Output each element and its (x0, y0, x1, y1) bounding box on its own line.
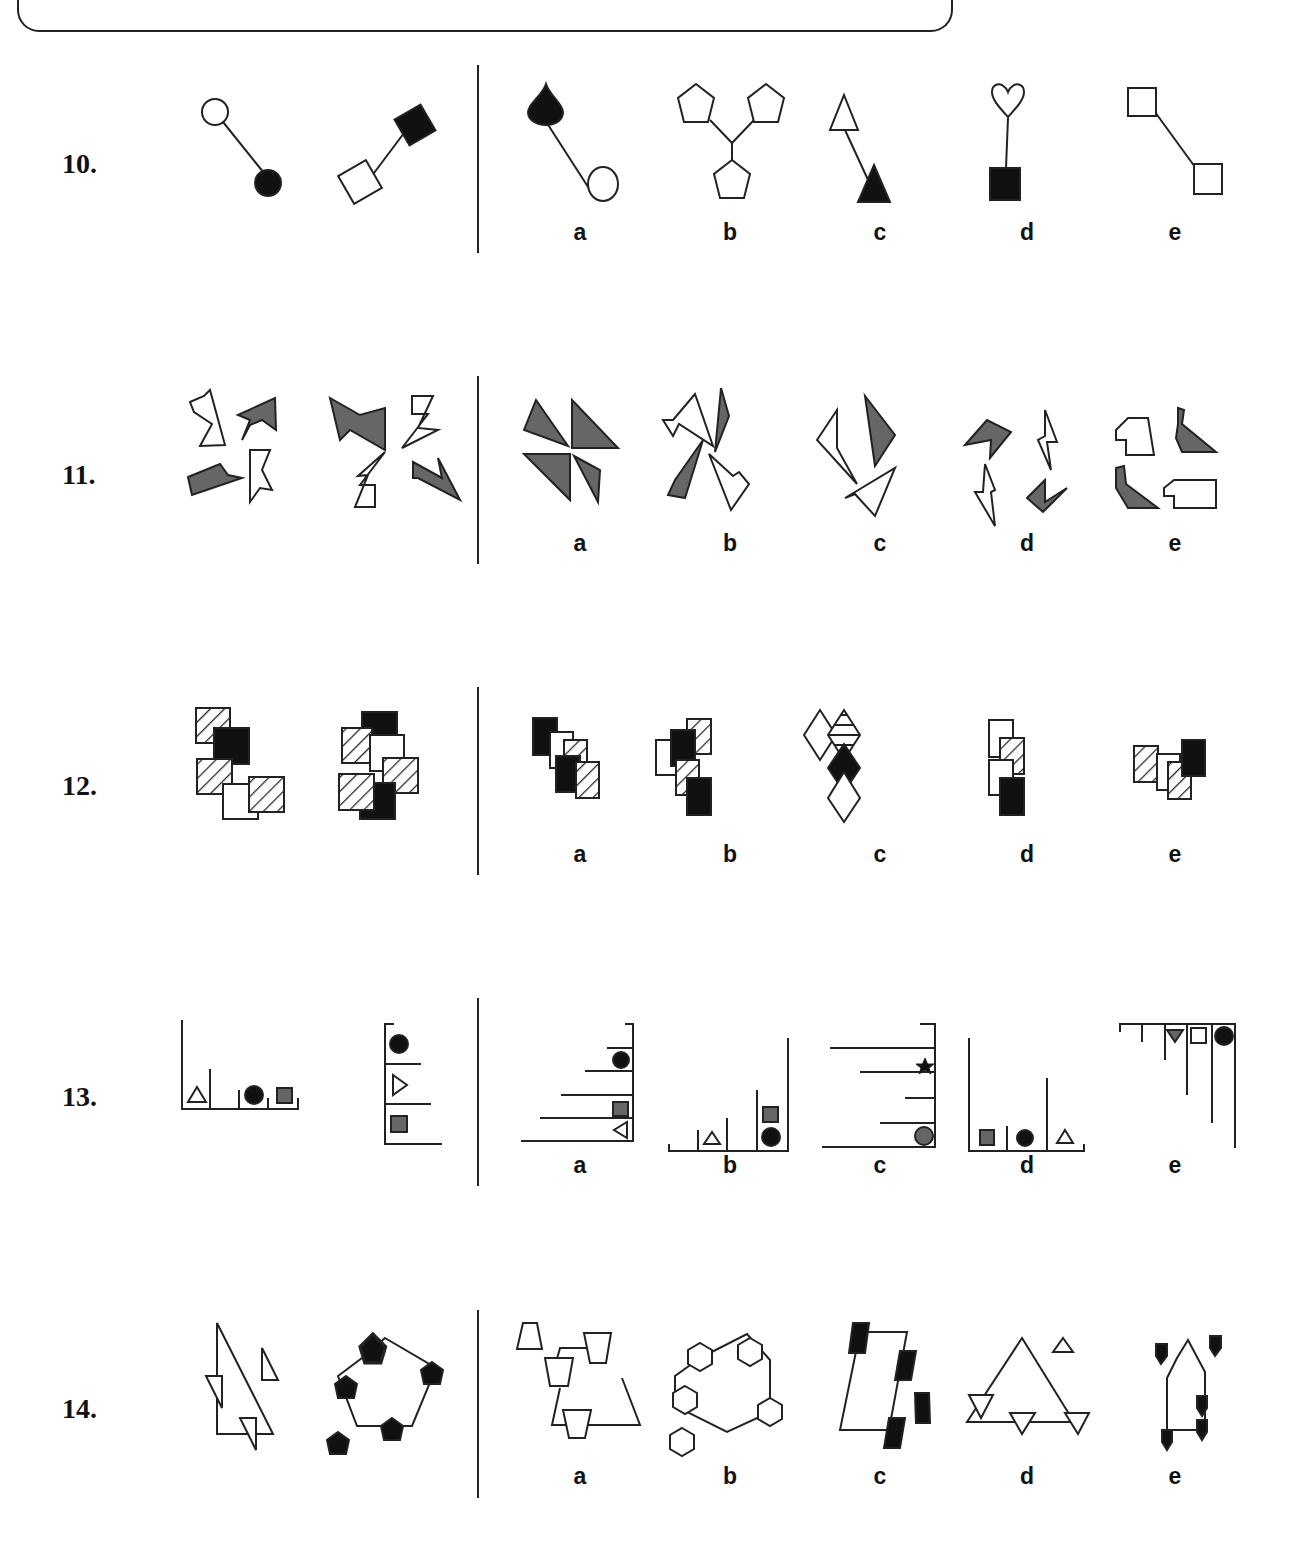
option-label-11e[interactable]: e (1160, 530, 1190, 557)
divider-14 (477, 1310, 479, 1498)
option-label-14b[interactable]: b (715, 1463, 745, 1490)
option-label-10c[interactable]: c (865, 219, 895, 246)
option-label-13b[interactable]: b (715, 1152, 745, 1179)
option-label-10e[interactable]: e (1160, 219, 1190, 246)
option-label-12c[interactable]: c (865, 841, 895, 868)
q11-question-figures (180, 390, 460, 520)
option-label-14a[interactable]: a (565, 1463, 595, 1490)
q12-question-figures (190, 700, 450, 830)
q14-answer-figures (515, 1318, 1245, 1458)
question-number-10: 10. (62, 148, 97, 180)
q11-answer-figures (520, 380, 1240, 530)
option-label-14d[interactable]: d (1012, 1463, 1042, 1490)
option-label-10d[interactable]: d (1012, 219, 1042, 246)
divider-10 (477, 65, 479, 253)
divider-13 (477, 998, 479, 1186)
q12-answer-figures (520, 700, 1240, 830)
option-label-11d[interactable]: d (1012, 530, 1042, 557)
divider-12 (477, 687, 479, 875)
option-label-12b[interactable]: b (715, 841, 745, 868)
option-label-11b[interactable]: b (715, 530, 745, 557)
option-label-10b[interactable]: b (715, 219, 745, 246)
q10-answer-figures (520, 80, 1240, 205)
question-number-11: 11. (62, 459, 95, 491)
option-label-14c[interactable]: c (865, 1463, 895, 1490)
option-label-13d[interactable]: d (1012, 1152, 1042, 1179)
option-label-13e[interactable]: e (1160, 1152, 1190, 1179)
question-number-14: 14. (62, 1393, 97, 1425)
question-number-13: 13. (62, 1081, 97, 1113)
option-label-12d[interactable]: d (1012, 841, 1042, 868)
option-label-10a[interactable]: a (565, 219, 595, 246)
option-label-13a[interactable]: a (565, 1152, 595, 1179)
q10-question-figures (190, 85, 440, 215)
question-number-12: 12. (62, 770, 97, 802)
option-label-12e[interactable]: e (1160, 841, 1190, 868)
header-frame (17, 0, 953, 32)
divider-11 (477, 376, 479, 564)
option-label-13c[interactable]: c (865, 1152, 895, 1179)
option-label-14e[interactable]: e (1160, 1463, 1190, 1490)
option-label-12a[interactable]: a (565, 841, 595, 868)
q13-question-figures (180, 1010, 450, 1140)
option-label-11c[interactable]: c (865, 530, 895, 557)
q13-answer-figures (515, 1010, 1245, 1150)
option-label-11a[interactable]: a (565, 530, 595, 557)
q14-question-figures (200, 1318, 450, 1458)
